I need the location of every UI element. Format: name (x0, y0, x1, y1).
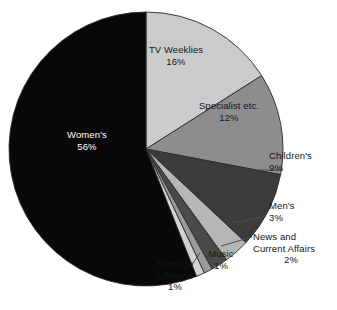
pie-chart: Women's 56% TV Weeklies 16% Specialist e… (0, 0, 337, 310)
pie-slices-group (9, 12, 283, 286)
pie-chart-svg (0, 0, 337, 310)
